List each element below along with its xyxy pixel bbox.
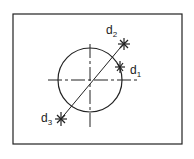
label-d2: d2 [106,23,118,39]
frame-border [13,14,182,144]
label-d3: d3 [41,111,53,127]
diagonal-line [60,42,125,120]
label-d1: d1 [130,63,142,79]
diagram-canvas: d2 d1 d3 [0,0,194,159]
